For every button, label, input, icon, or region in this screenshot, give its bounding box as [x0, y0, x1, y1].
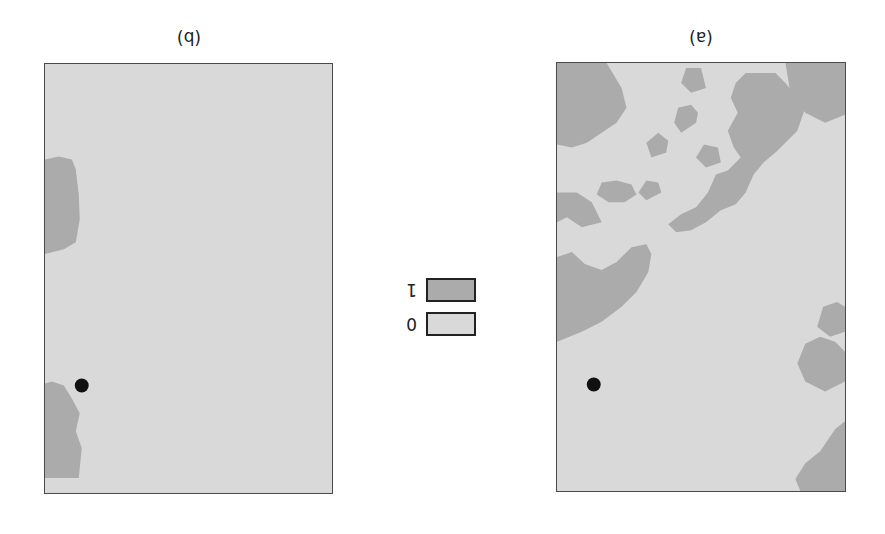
- location-marker-a: [587, 378, 601, 392]
- panel-label-b: (b): [159, 28, 219, 48]
- map-a-shapes: [557, 63, 845, 491]
- map-panel-b: [44, 63, 333, 494]
- panel-label-a: (a): [671, 28, 731, 48]
- legend-label-0: 0: [406, 314, 417, 334]
- legend-item-1: 1: [406, 278, 476, 302]
- legend-swatch-0: [426, 312, 476, 336]
- map-panel-a: [556, 62, 846, 492]
- figure-rotated: (a) (b) 1 0: [0, 0, 885, 534]
- legend-swatch-1: [426, 278, 476, 302]
- legend-label-1: 1: [406, 280, 417, 300]
- map-b-shapes: [45, 64, 332, 493]
- location-marker-b: [75, 379, 89, 393]
- legend-item-0: 0: [406, 312, 476, 336]
